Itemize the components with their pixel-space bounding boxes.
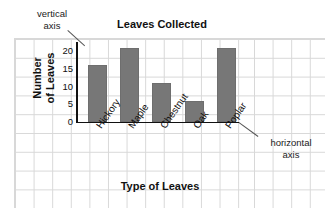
- bar-chart-figure: vertical axis horizontal axis Leaves Col…: [0, 0, 325, 216]
- x-axis-title: Type of Leaves: [80, 180, 240, 192]
- y-axis-tick-labels: 20151050: [57, 44, 73, 122]
- chart-title: Leaves Collected: [82, 18, 242, 30]
- y-axis-tick-label: 15: [59, 64, 73, 74]
- plot-area: [76, 44, 238, 122]
- annotation-vertical-axis-line2: axis: [24, 20, 80, 32]
- annotation-horizontal-axis: horizontal axis: [260, 137, 322, 160]
- y-axis-tick-label: 20: [59, 46, 73, 56]
- y-axis-tick-label: 10: [59, 82, 73, 92]
- x-axis-category-labels: HickoryMapleChestnutOakPoplar: [76, 124, 246, 174]
- y-axis-tick-label: 0: [59, 117, 73, 127]
- y-axis-title-line2: of Leaves: [44, 40, 56, 116]
- y-axis-tick-label: 5: [59, 99, 73, 109]
- annotation-vertical-axis: vertical axis: [24, 8, 80, 31]
- annotation-horizontal-axis-line2: axis: [260, 149, 322, 161]
- graph-paper-background-right: [254, 38, 325, 208]
- y-axis-title-line1: Number: [31, 40, 43, 116]
- annotation-vertical-axis-line1: vertical: [24, 8, 80, 20]
- annotation-horizontal-axis-line1: horizontal: [260, 137, 322, 149]
